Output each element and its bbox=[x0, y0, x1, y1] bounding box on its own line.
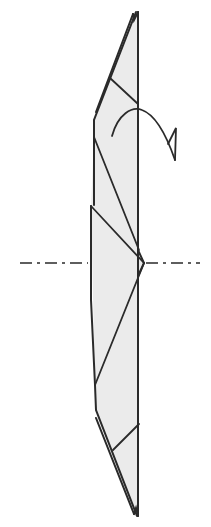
folded-model bbox=[91, 12, 144, 516]
origami-diagram bbox=[0, 0, 211, 527]
paper-body bbox=[91, 12, 144, 516]
